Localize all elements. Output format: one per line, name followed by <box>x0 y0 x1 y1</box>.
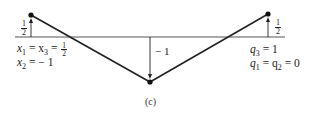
left-node-dot <box>28 12 33 17</box>
left-arrow-head-icon <box>29 18 33 23</box>
figure-caption: (c) <box>145 96 156 107</box>
right-equation-line2: q1 = q2 = 0 <box>250 57 300 74</box>
eq-x: = x <box>26 42 44 54</box>
left-equation-line2: x2 = − 1 <box>17 56 53 73</box>
eq-rest: = 1 <box>260 43 278 55</box>
inline-frac-half: 12 <box>61 42 67 57</box>
bottom-value-label: − 1 <box>155 45 169 57</box>
eq-q: = q <box>260 57 278 69</box>
eq-sign: = <box>48 42 60 54</box>
bottom-node-dot <box>147 79 152 84</box>
frac-den: 2 <box>62 50 66 57</box>
mid-arrow-head-icon <box>148 74 152 79</box>
left-frac-den: 2 <box>22 29 26 37</box>
left-value-label: 1 2 <box>21 20 27 37</box>
right-node-dot <box>265 11 270 16</box>
eq-rest: = 0 <box>282 57 300 69</box>
right-value-label: 1 2 <box>275 19 281 36</box>
right-arrow-head-icon <box>266 17 270 22</box>
right-frac-den: 2 <box>276 28 280 36</box>
eq-rest: = − 1 <box>26 56 53 68</box>
